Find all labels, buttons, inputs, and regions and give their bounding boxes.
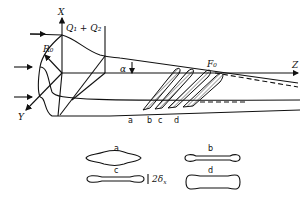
cross-section-d (186, 175, 240, 189)
section-label-a: a (128, 116, 133, 125)
y-axis-label: Y (18, 112, 25, 122)
flow-label: Q₁ + Q₂ (66, 23, 102, 33)
cross-section-label-b: b (208, 144, 213, 153)
upper-profile-curve (30, 34, 298, 83)
section-label-c: c (158, 116, 162, 125)
radius-arrow (45, 55, 62, 73)
angle-label: α (120, 64, 126, 74)
cross-section-label-a: a (114, 144, 119, 153)
x-axis-label: X (57, 7, 65, 17)
dashed-line-upper (215, 73, 298, 87)
diagram-canvas: X Y Z Q₁ + Q₂ R₀ α F₀ a b c d a b c (0, 0, 302, 203)
section-label-d: d (174, 116, 179, 125)
section-label-b: b (147, 116, 152, 125)
z-axis-label: Z (291, 60, 299, 70)
cross-section-label-d: d (208, 166, 213, 175)
cross-section-b (185, 155, 240, 162)
radius-label: R₀ (42, 44, 54, 54)
oblique-line-1 (60, 56, 105, 115)
oblique-line-3 (58, 73, 62, 116)
thickness-label: 2δx (151, 174, 167, 185)
y-axis (26, 73, 62, 110)
cross-section-label-c: c (114, 166, 118, 175)
focus-label: F₀ (206, 59, 217, 69)
cross-section-c (87, 176, 144, 183)
